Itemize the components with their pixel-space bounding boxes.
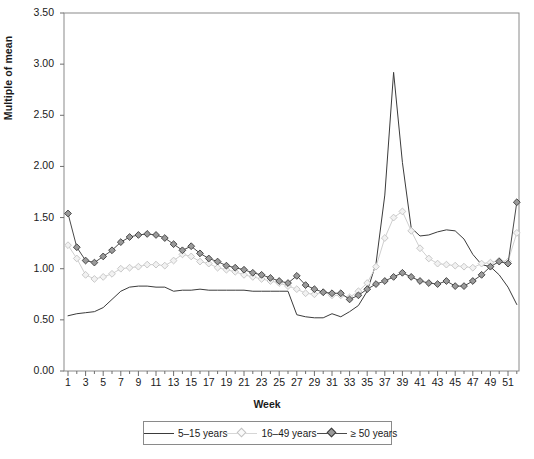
plot-frame	[64, 13, 519, 371]
data-point-marker	[205, 255, 212, 262]
data-point-marker	[65, 210, 72, 217]
y-tick-label: 2.00	[16, 159, 54, 171]
legend-label-50-plus: ≥ 50 years	[350, 428, 398, 439]
y-tick-label: 0.00	[16, 364, 54, 376]
y-tick-label: 0.50	[16, 313, 54, 325]
data-point-marker	[364, 286, 371, 293]
data-point-marker	[373, 281, 380, 288]
chart-legend: 5–15 years 16–49 years ≥ 50 years	[143, 421, 392, 445]
y-tick-label: 1.00	[16, 262, 54, 274]
data-point-marker	[443, 278, 450, 285]
data-point-marker	[170, 257, 177, 264]
data-point-marker	[258, 271, 265, 278]
data-point-marker	[381, 278, 388, 285]
data-point-marker	[373, 263, 380, 270]
y-tick-label: 2.50	[16, 108, 54, 120]
data-point-marker	[100, 253, 107, 260]
data-point-marker	[469, 278, 476, 285]
legend-item-16-49[interactable]: 16–49 years	[227, 428, 316, 439]
data-point-marker	[461, 283, 468, 290]
legend-swatch-line-icon	[144, 428, 174, 439]
data-point-marker	[91, 276, 98, 283]
data-point-marker	[153, 261, 160, 268]
data-point-marker	[73, 244, 80, 251]
data-point-marker	[100, 273, 107, 280]
legend-label-5-15: 5–15 years	[177, 428, 227, 439]
data-point-marker	[434, 260, 441, 267]
data-point-marker	[223, 262, 230, 269]
data-point-marker	[188, 253, 195, 260]
data-point-marker	[91, 259, 98, 266]
data-point-marker	[232, 264, 239, 271]
legend-item-5-15[interactable]: 5–15 years	[144, 428, 227, 439]
data-point-marker	[399, 208, 406, 215]
legend-swatch-filled-diamond-icon	[317, 428, 347, 439]
data-point-marker	[293, 286, 300, 293]
legend-item-50-plus[interactable]: ≥ 50 years	[317, 428, 398, 439]
data-point-marker	[82, 257, 89, 264]
series-line	[68, 202, 517, 299]
data-point-marker	[311, 286, 318, 293]
data-point-marker	[109, 270, 116, 277]
data-point-marker	[452, 283, 459, 290]
chart-figure: Multiple of mean Week 5–15 years 16–49 y…	[0, 0, 534, 459]
data-point-marker	[144, 261, 151, 268]
data-point-marker	[135, 232, 142, 239]
data-point-marker	[214, 258, 221, 265]
data-point-marker	[425, 280, 432, 287]
data-point-marker	[126, 234, 133, 241]
data-point-marker	[241, 266, 248, 273]
data-point-marker	[381, 235, 388, 242]
data-point-marker	[434, 281, 441, 288]
data-point-marker	[82, 271, 89, 278]
data-point-marker	[469, 264, 476, 271]
data-point-marker	[461, 263, 468, 270]
series-line	[68, 211, 517, 297]
data-point-marker	[302, 290, 309, 297]
data-point-marker	[161, 262, 168, 269]
data-point-marker	[249, 269, 256, 276]
data-point-marker	[443, 261, 450, 268]
data-point-marker	[320, 289, 327, 296]
chart-plot-area	[0, 0, 534, 459]
data-point-marker	[153, 232, 160, 239]
legend-swatch-open-diamond-icon	[227, 428, 257, 439]
data-point-marker	[170, 241, 177, 248]
data-point-marker	[417, 278, 424, 285]
data-point-marker	[144, 231, 151, 238]
x-axis-label: Week	[0, 398, 534, 410]
data-point-marker	[117, 265, 124, 272]
data-point-marker	[399, 269, 406, 276]
data-point-marker	[65, 242, 72, 249]
y-tick-label: 1.50	[16, 211, 54, 223]
data-point-marker	[390, 273, 397, 280]
data-point-marker	[73, 255, 80, 262]
y-tick-label: 3.50	[16, 6, 54, 18]
y-tick-label: 3.00	[16, 57, 54, 69]
data-point-marker	[135, 263, 142, 270]
data-point-marker	[179, 247, 186, 254]
data-point-marker	[408, 273, 415, 280]
data-point-marker	[452, 262, 459, 269]
data-point-marker	[390, 214, 397, 221]
legend-label-16-49: 16–49 years	[260, 428, 316, 439]
x-tick-label: 51	[498, 376, 518, 388]
data-point-marker	[161, 235, 168, 242]
data-point-marker	[197, 258, 204, 265]
data-point-marker	[126, 264, 133, 271]
data-point-marker	[408, 227, 415, 234]
